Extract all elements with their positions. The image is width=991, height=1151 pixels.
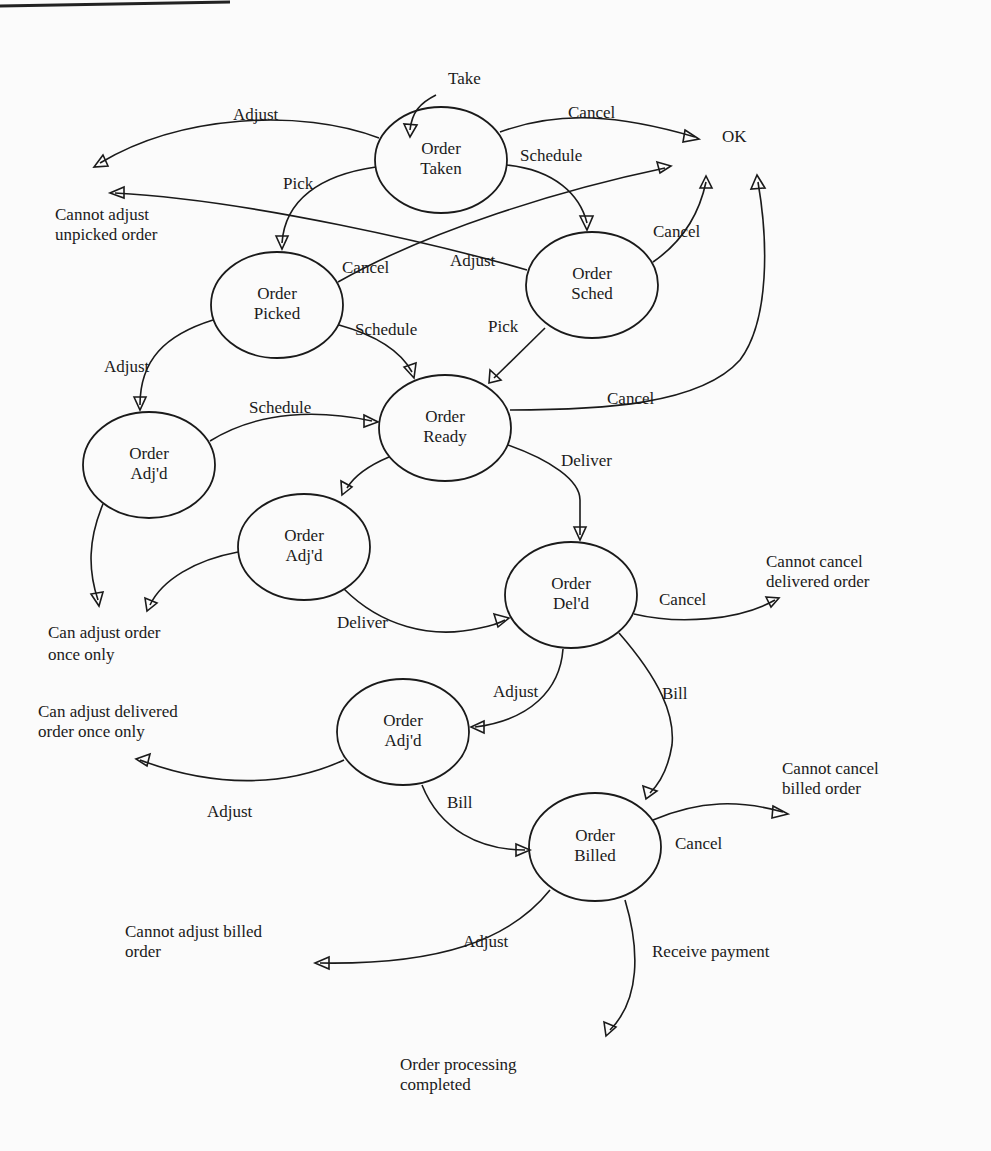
edge-ready-adjust (341, 457, 389, 495)
top-border-line (0, 2, 230, 6)
edge-label: Pick (488, 317, 519, 336)
state-label-line2: Ready (423, 427, 467, 446)
edge-label: Cancel (342, 258, 389, 277)
state-label-line2: Del'd (553, 594, 590, 613)
edge-label: Cancel (607, 389, 654, 408)
edge-path (610, 900, 635, 1030)
edge-picked-schedule: Schedule (339, 320, 417, 378)
outcome-line: delivered order (766, 572, 870, 591)
state-order-picked: Order Picked (211, 252, 343, 358)
outcome-cannot-cancel-billed: Cannot cancel billed order (782, 759, 879, 798)
edge-billed-receive-payment: Receive payment (604, 900, 770, 1036)
state-label-line2: Taken (420, 159, 462, 178)
edge-picked-adjust: Adjust (104, 320, 213, 410)
edge-taken-pick: Pick (276, 167, 376, 249)
edge-path (347, 457, 389, 488)
edge-adjd3-bill: Bill (422, 785, 530, 856)
edge-path (150, 552, 238, 605)
state-label-line2: Adj'd (384, 731, 422, 750)
state-label-line2: Billed (574, 846, 616, 865)
arrowhead-icon (494, 614, 509, 627)
state-label-line2: Adj'd (130, 464, 168, 483)
edge-path (619, 633, 672, 793)
edge-label: Bill (447, 793, 473, 812)
outcome-line: Can adjust order (48, 623, 161, 642)
state-label-line2: Adj'd (285, 546, 323, 565)
outcome-line: billed order (782, 779, 861, 798)
edge-label: Schedule (249, 398, 311, 417)
edge-label: Pick (283, 174, 314, 193)
outcome-line: completed (400, 1075, 471, 1094)
edge-sched-adjust: Adjust (110, 187, 527, 270)
edge-label: Adjust (450, 251, 496, 270)
edge-adjd1-adjust (91, 504, 103, 606)
outcome-cannot-adjust-unpicked: Cannot adjust unpicked order (55, 205, 158, 244)
outcome-can-adjust-delivered-once: Can adjust delivered order once only (38, 702, 178, 741)
edge-label: Adjust (207, 802, 253, 821)
arrowhead-icon (136, 754, 150, 766)
state-label-line1: Order (551, 574, 591, 593)
state-order-billed: Order Billed (529, 793, 661, 901)
state-label-line1: Order (572, 264, 612, 283)
state-label-line1: Order (257, 284, 297, 303)
outcome-cannot-adjust-billed: Cannot adjust billed order (125, 922, 262, 961)
edge-take: Take (404, 69, 481, 137)
state-label-line2: Sched (571, 284, 613, 303)
edge-path (510, 182, 765, 410)
edge-path (210, 414, 372, 441)
outcome-order-completed: Order processing completed (400, 1055, 517, 1094)
state-label-line1: Order (284, 526, 324, 545)
edge-label: Adjust (104, 357, 150, 376)
edge-path (507, 165, 587, 223)
edge-label: Deliver (561, 451, 612, 470)
edge-label: Cancel (659, 590, 706, 609)
edge-label: Schedule (520, 146, 582, 165)
edge-ready-deliver: Deliver (508, 445, 612, 540)
edge-path (320, 890, 550, 963)
edge-taken-adjust: Adjust (94, 105, 379, 167)
edge-label: Schedule (355, 320, 417, 339)
edge-label: Adjust (493, 682, 539, 701)
edge-path (140, 760, 344, 781)
state-label-line1: Order (421, 139, 461, 158)
outcome-line: Cannot adjust (55, 205, 149, 224)
state-label-line1: Order (129, 444, 169, 463)
edge-billed-adjust: Adjust (315, 890, 550, 969)
state-label-line2: Picked (254, 304, 301, 323)
state-order-deld: Order Del'd (505, 542, 637, 648)
edge-label: Adjust (463, 932, 509, 951)
edge-path (653, 804, 783, 820)
edge-taken-cancel: Cancel (500, 103, 699, 142)
state-label-line1: Order (575, 826, 615, 845)
edge-label: Adjust (233, 105, 279, 124)
outcome-can-adjust-once: Can adjust order once only (48, 623, 161, 664)
edge-deld-cancel: Cancel (634, 590, 779, 620)
edge-label: Take (448, 69, 481, 88)
edge-label: Cancel (568, 103, 615, 122)
edge-adjd1-schedule: Schedule (210, 398, 378, 441)
edge-path (91, 504, 103, 600)
edge-billed-cancel: Cancel (653, 804, 788, 853)
outcome-cannot-cancel-delivered: Cannot cancel delivered order (766, 552, 870, 591)
state-order-sched: Order Sched (526, 232, 658, 338)
outcome-line: order once only (38, 722, 145, 741)
outcome-line: Cannot cancel (766, 552, 863, 571)
arrowhead-icon (404, 363, 416, 378)
edge-label: Bill (662, 684, 688, 703)
edge-adjd3-adjust: Adjust (136, 754, 344, 821)
outcome-ok: OK (722, 127, 747, 146)
state-order-taken: Order Taken (375, 107, 507, 213)
outcome-line: Cannot cancel (782, 759, 879, 778)
state-order-adjd-3: Order Adj'd (337, 679, 469, 785)
edge-path (422, 785, 525, 850)
edge-path (140, 320, 213, 405)
outcome-line: Order processing (400, 1055, 517, 1074)
edge-ready-cancel: Cancel (510, 175, 765, 410)
edge-path (100, 120, 379, 163)
state-label-line1: Order (425, 407, 465, 426)
edge-label: Cancel (675, 834, 722, 853)
edge-label: Deliver (337, 613, 388, 632)
state-order-adjd-1: Order Adj'd (83, 412, 215, 518)
edge-deld-adjust: Adjust (471, 649, 563, 733)
outcome-line: once only (48, 645, 115, 664)
